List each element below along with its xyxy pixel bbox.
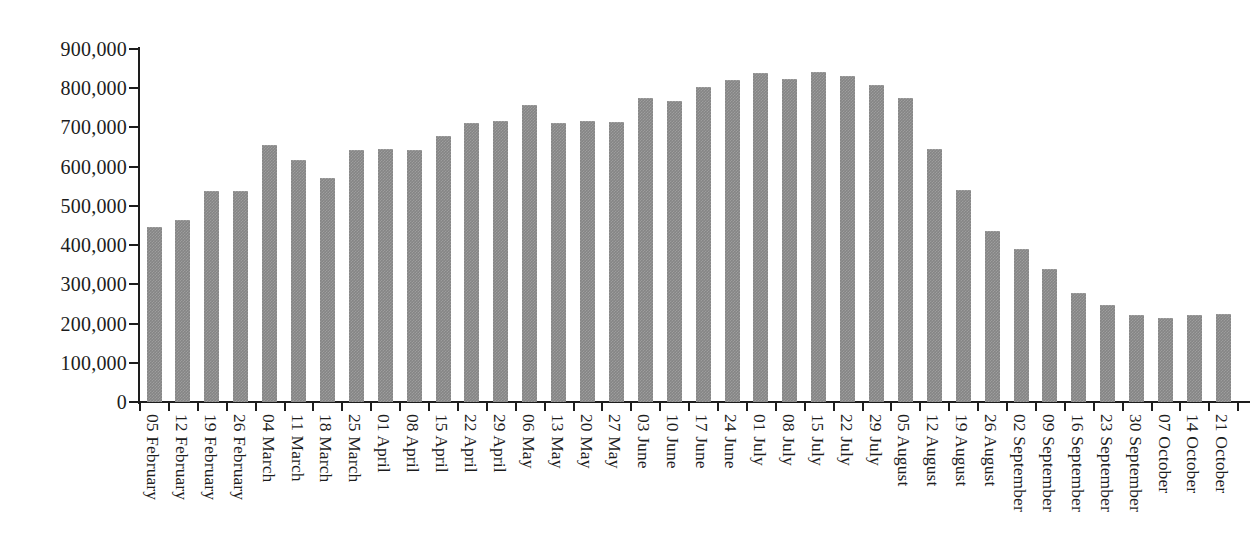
bar [927,149,942,402]
x-axis-tick [168,402,170,411]
x-axis-tick [948,402,950,411]
bar [320,178,335,402]
x-axis-category-label: 11 March [288,414,306,482]
x-axis-category-label: 19 August [953,414,971,486]
y-axis-tick-label: 400,000 [61,235,127,255]
bar [1014,249,1029,402]
y-axis-tick [129,323,139,325]
x-axis-tick [457,402,459,411]
x-axis-tick [486,402,488,411]
x-axis-category-label: 07 October [1155,414,1173,493]
bar [1100,305,1115,402]
x-axis-tick [630,402,632,411]
bar [407,150,422,402]
bar [1042,269,1057,402]
x-axis-tick [919,402,921,411]
y-axis-tick-label: 200,000 [61,314,127,334]
x-axis-category-label: 05 February [144,414,162,500]
bar [638,98,653,402]
x-axis-category-label: 18 March [317,414,335,482]
x-axis-tick [717,402,719,411]
bar-chart: 900,000800,000700,000600,000500,000400,0… [0,0,1258,556]
x-axis-category-label: 04 March [259,414,277,482]
bar [1187,315,1202,402]
x-axis-category-label: 15 April [433,414,451,473]
bar [147,227,162,402]
x-axis-category-label: 22 April [461,414,479,473]
x-axis-category-label: 17 June [693,414,711,469]
x-axis-tick [746,402,748,411]
x-axis-category-label: 26 February [230,414,248,500]
x-axis-category-label: 09 September [1039,414,1057,512]
x-axis-category-label: 29 July [866,414,884,466]
x-axis-tick [977,402,979,411]
x-axis-tick [833,402,835,411]
bar [840,76,855,402]
y-axis-tick [129,166,139,168]
x-axis-tick [573,402,575,411]
x-axis-tick [428,402,430,411]
bar [378,149,393,402]
bar [956,190,971,402]
y-axis-tick [129,283,139,285]
x-axis-tick [544,402,546,411]
y-axis-tick-label: 300,000 [61,274,127,294]
bar [696,87,711,402]
x-axis-tick [1006,402,1008,411]
y-axis-tick [129,205,139,207]
y-axis-tick-label: 700,000 [61,117,127,137]
x-axis-tick [1151,402,1153,411]
bar [869,85,884,402]
x-axis-category-label: 22 July [837,414,855,466]
bar [782,79,797,402]
y-axis-tick-label: 0 [117,392,127,412]
bar [349,150,364,402]
x-axis-tick [601,402,603,411]
x-axis-category-label: 14 October [1184,414,1202,493]
x-axis-category-label: 08 April [404,414,422,473]
bar [522,105,537,402]
plot-area [140,49,1248,402]
x-axis-tick [399,402,401,411]
x-axis-tick [804,402,806,411]
x-axis-category-label: 13 May [548,414,566,469]
y-axis-tick [129,48,139,50]
bar [262,145,277,402]
x-axis-tick [659,402,661,411]
x-axis-category-label: 02 September [1011,414,1029,512]
x-axis-tick [890,402,892,411]
bar [233,191,248,402]
bar [667,101,682,402]
x-axis-tick [226,402,228,411]
bar [1158,318,1173,402]
x-axis-tick [688,402,690,411]
x-axis-category-label: 24 June [722,414,740,469]
x-axis-tick [1179,402,1181,411]
bar [493,121,508,402]
bar [609,122,624,402]
x-axis-category-label: 12 August [924,414,942,486]
y-axis-tick-label: 500,000 [61,196,127,216]
bar [204,191,219,402]
x-axis-category-label: 21 October [1213,414,1231,493]
x-axis-tick [139,402,141,411]
x-axis-category-label: 01 April [375,414,393,473]
bar [464,123,479,402]
y-axis-tick-label: 900,000 [61,39,127,59]
bar [580,121,595,402]
x-axis-tick [515,402,517,411]
y-axis-tick [129,362,139,364]
x-axis-tick [284,402,286,411]
y-axis-tick [129,244,139,246]
x-axis-tick [862,402,864,411]
y-axis-tick-label: 600,000 [61,157,127,177]
bar [725,80,740,402]
x-axis-tick [370,402,372,411]
x-axis-category-label: 26 August [982,414,1000,486]
bar [811,72,826,402]
bar [1129,315,1144,402]
x-axis-category-label: 23 September [1097,414,1115,512]
x-axis-tick [1093,402,1095,411]
x-axis-tick [312,402,314,411]
x-axis-category-label: 27 May [606,414,624,469]
